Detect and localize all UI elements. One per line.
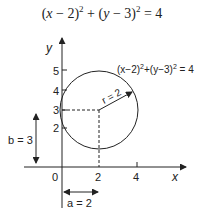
y-tick-4: 4 (53, 85, 59, 97)
y-tick-5: 5 (53, 65, 59, 77)
circle-diagram: 5 4 3 2 0 2 4 x y r = 2 (x−2)2+(y−3)2 = … (0, 0, 204, 217)
x-tick-4: 4 (133, 171, 139, 183)
circle-equation-label: (x−2)2+(y−3)2 = 4 (117, 63, 194, 75)
x-tick-2: 2 (95, 171, 101, 183)
y-tick-3: 3 (53, 104, 59, 116)
b-label: b = 3 (8, 134, 33, 146)
a-label: a = 2 (67, 197, 92, 209)
x-tick-0: 0 (52, 171, 58, 183)
y-axis-label: y (45, 41, 53, 55)
y-tick-2: 2 (53, 122, 59, 134)
x-axis-label: x (171, 170, 179, 184)
